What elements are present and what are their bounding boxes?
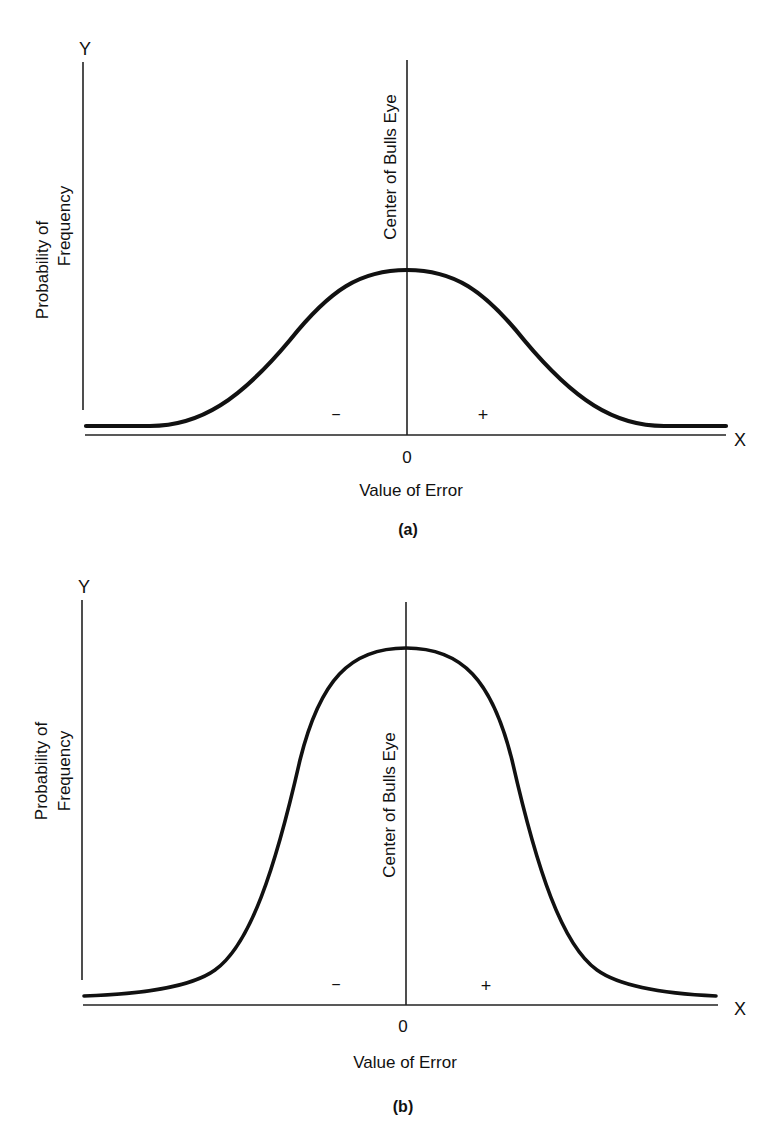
y-label-line2-b: Frequency [55, 730, 74, 811]
y-label-line2-a: Frequency [55, 185, 74, 266]
distribution-curve-a [86, 270, 726, 426]
x-axis-letter-b: X [734, 999, 746, 1019]
x-axis-letter-a: X [734, 430, 746, 450]
center-label-a: Center of Bulls Eye [381, 94, 400, 240]
distribution-curve-b [84, 648, 716, 996]
minus-sign-b: − [331, 976, 340, 993]
caption-a: (a) [398, 521, 418, 538]
center-label-b: Center of Bulls Eye [380, 732, 399, 878]
minus-sign-a: − [331, 406, 340, 423]
y-axis-letter-a: Y [79, 39, 91, 59]
figure-a: Y Probability of Frequency X Center of B… [33, 39, 746, 538]
plus-sign-a: + [478, 405, 489, 425]
figure-b: Y Probability of Frequency X Center of B… [32, 577, 746, 1115]
caption-b: (b) [393, 1098, 413, 1115]
y-label-line1-b: Probability of [32, 722, 51, 821]
zero-tick-b: 0 [398, 1017, 407, 1036]
y-label-line1-a: Probability of [33, 221, 52, 320]
x-label-b: Value of Error [353, 1053, 457, 1072]
y-axis-letter-b: Y [78, 577, 90, 597]
zero-tick-a: 0 [402, 448, 411, 467]
x-label-a: Value of Error [359, 481, 463, 500]
plus-sign-b: + [481, 976, 492, 996]
